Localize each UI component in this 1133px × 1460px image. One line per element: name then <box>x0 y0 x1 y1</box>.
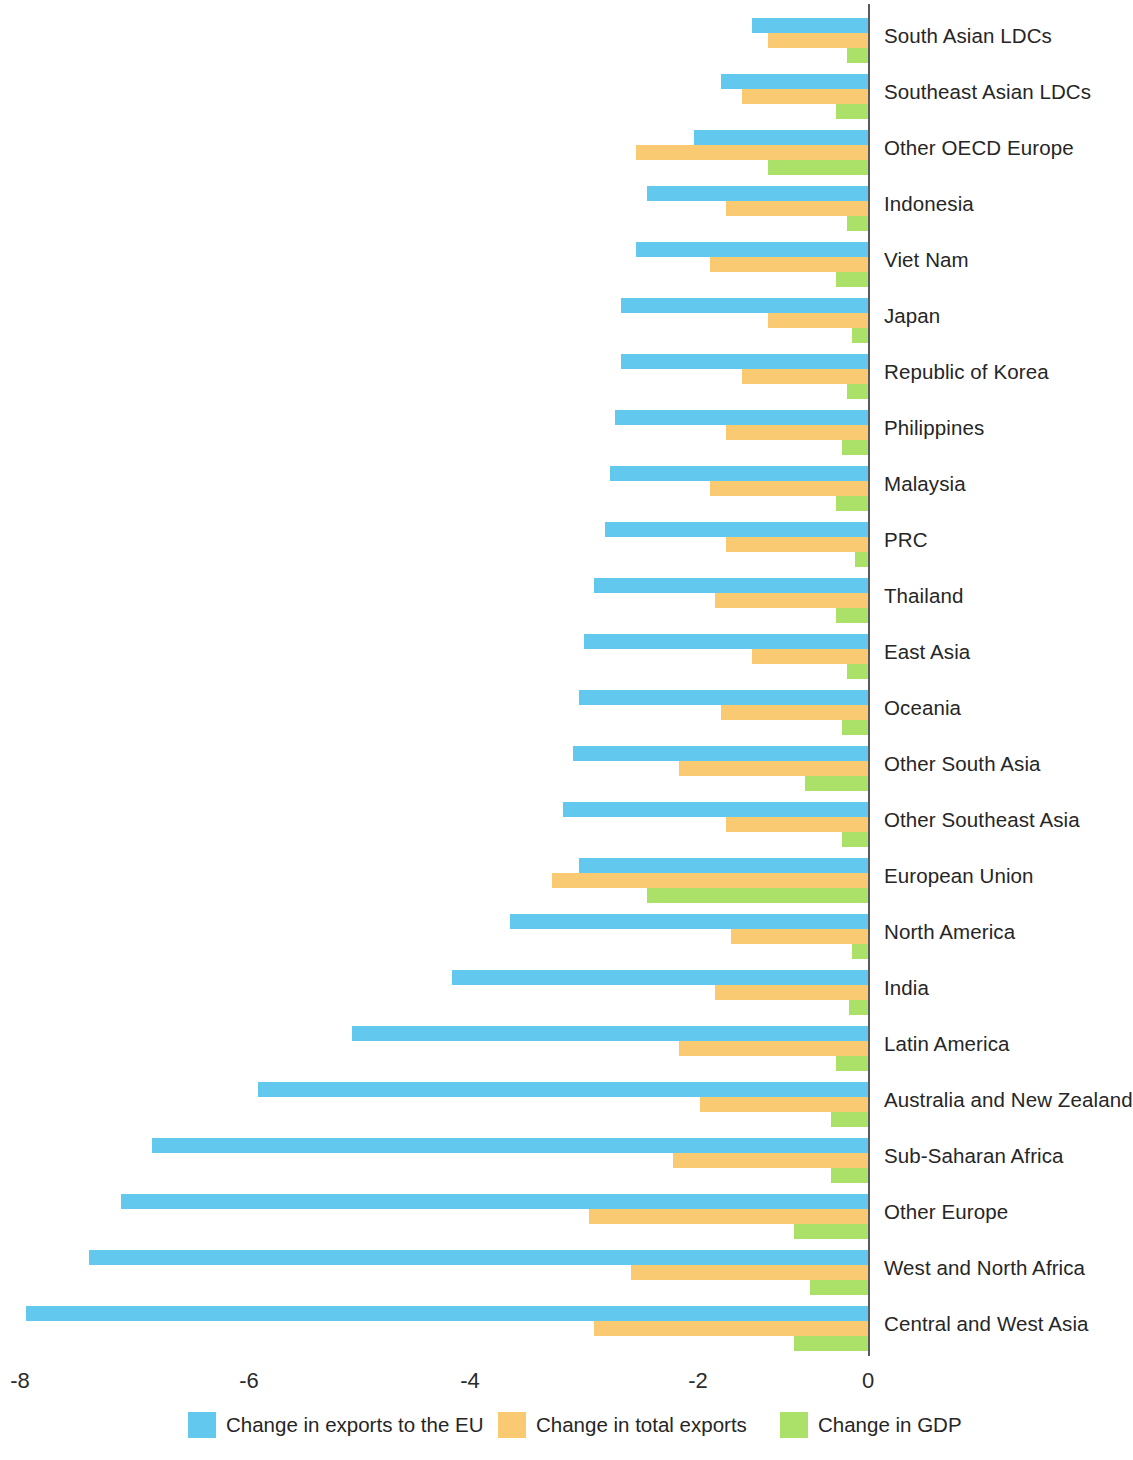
bar-1 <box>715 985 868 1000</box>
bar-1 <box>726 201 868 216</box>
bar-1 <box>594 1321 868 1336</box>
chart-row: Republic of Korea <box>0 354 1131 410</box>
chart-row: PRC <box>0 522 1131 578</box>
category-label: Other Southeast Asia <box>884 808 1080 832</box>
chart-row: Indonesia <box>0 186 1131 242</box>
legend-label: Change in GDP <box>818 1413 962 1437</box>
bar-0 <box>152 1138 868 1153</box>
bar-1 <box>768 33 868 48</box>
legend-item-1[interactable]: Change in total exports <box>498 1412 747 1438</box>
x-tick-label: -8 <box>10 1368 30 1394</box>
bar-1 <box>673 1153 868 1168</box>
category-label: Southeast Asian LDCs <box>884 80 1091 104</box>
category-label: South Asian LDCs <box>884 24 1052 48</box>
bar-2 <box>855 552 868 567</box>
bar-2 <box>852 328 868 343</box>
category-label: Sub-Saharan Africa <box>884 1144 1064 1168</box>
category-label: Malaysia <box>884 472 966 496</box>
bar-2 <box>805 776 868 791</box>
category-label: European Union <box>884 864 1034 888</box>
chart-row: European Union <box>0 858 1131 914</box>
chart-row: India <box>0 970 1131 1026</box>
bar-1 <box>679 761 868 776</box>
bar-1 <box>742 89 868 104</box>
bar-2 <box>794 1224 868 1239</box>
bar-1 <box>726 425 868 440</box>
category-label: West and North Africa <box>884 1256 1085 1280</box>
legend-item-2[interactable]: Change in GDP <box>780 1412 962 1438</box>
bar-2 <box>836 1056 868 1071</box>
bar-0 <box>594 578 868 593</box>
category-label: India <box>884 976 929 1000</box>
chart-row: Thailand <box>0 578 1131 634</box>
bar-2 <box>836 496 868 511</box>
bar-1 <box>552 873 868 888</box>
chart-row: Sub-Saharan Africa <box>0 1138 1131 1194</box>
x-axis: -8-6-4-20 <box>0 1356 1131 1406</box>
bar-0 <box>258 1082 868 1097</box>
bar-1 <box>768 313 868 328</box>
bar-2 <box>852 944 868 959</box>
category-label: Republic of Korea <box>884 360 1049 384</box>
bar-0 <box>721 74 868 89</box>
x-tick-label: -6 <box>239 1368 259 1394</box>
bar-2 <box>842 720 868 735</box>
bar-1 <box>726 537 868 552</box>
bar-2 <box>831 1112 868 1127</box>
chart-row: Other South Asia <box>0 746 1131 802</box>
bar-0 <box>694 130 868 145</box>
chart-row: Malaysia <box>0 466 1131 522</box>
bar-1 <box>700 1097 868 1112</box>
bar-2 <box>831 1168 868 1183</box>
category-label: Indonesia <box>884 192 974 216</box>
chart-row: South Asian LDCs <box>0 18 1131 74</box>
bar-2 <box>842 832 868 847</box>
bar-0 <box>752 18 868 33</box>
chart-legend: Change in exports to the EUChange in tot… <box>0 1412 1131 1452</box>
legend-label: Change in exports to the EU <box>226 1413 484 1437</box>
bar-2 <box>842 440 868 455</box>
category-label: Viet Nam <box>884 248 969 272</box>
x-tick-label: -2 <box>688 1368 708 1394</box>
category-label: Japan <box>884 304 940 328</box>
bar-1 <box>752 649 868 664</box>
bar-0 <box>621 354 868 369</box>
chart-row: Viet Nam <box>0 242 1131 298</box>
category-label: Australia and New Zealand <box>884 1088 1133 1112</box>
bar-0 <box>647 186 868 201</box>
legend-item-0[interactable]: Change in exports to the EU <box>188 1412 484 1438</box>
category-label: PRC <box>884 528 928 552</box>
bar-1 <box>636 145 868 160</box>
legend-swatch-icon <box>498 1412 526 1438</box>
bar-2 <box>849 1000 868 1015</box>
chart-row: Latin America <box>0 1026 1131 1082</box>
bar-0 <box>610 466 868 481</box>
bar-0 <box>579 858 868 873</box>
bar-2 <box>847 664 868 679</box>
bar-0 <box>563 802 868 817</box>
bar-1 <box>710 257 868 272</box>
bar-0 <box>621 298 868 313</box>
bar-2 <box>847 216 868 231</box>
category-label: North America <box>884 920 1015 944</box>
bar-2 <box>836 272 868 287</box>
bar-2 <box>647 888 868 903</box>
bar-0 <box>605 522 868 537</box>
chart-row: East Asia <box>0 634 1131 690</box>
bar-2 <box>847 384 868 399</box>
chart-row: Philippines <box>0 410 1131 466</box>
chart-row: Other Southeast Asia <box>0 802 1131 858</box>
legend-label: Change in total exports <box>536 1413 747 1437</box>
chart-row: Other Europe <box>0 1194 1131 1250</box>
chart-row: Oceania <box>0 690 1131 746</box>
category-label: Latin America <box>884 1032 1010 1056</box>
x-tick-label: -4 <box>460 1368 480 1394</box>
category-label: Oceania <box>884 696 961 720</box>
bar-2 <box>847 48 868 63</box>
chart-row: North America <box>0 914 1131 970</box>
bar-1 <box>726 817 868 832</box>
bar-1 <box>679 1041 868 1056</box>
chart-row: Southeast Asian LDCs <box>0 74 1131 130</box>
legend-swatch-icon <box>188 1412 216 1438</box>
